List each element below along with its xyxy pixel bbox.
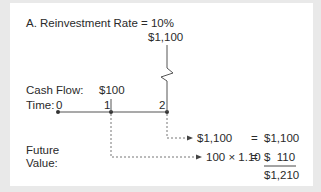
time-point-0: 0 xyxy=(56,99,62,112)
fv-total: $1,210 xyxy=(264,169,299,182)
time-point-1: 1 xyxy=(104,99,110,112)
cash-flow-t1: $100 xyxy=(99,84,125,97)
time-label: Time: xyxy=(26,99,54,112)
fv-eq-1: = xyxy=(251,132,258,145)
future-value-label-2: Value: xyxy=(26,157,58,170)
fv-eq-2: = xyxy=(251,151,258,164)
fv-result-1: $1,100 xyxy=(264,132,299,145)
arrow-icon xyxy=(196,155,202,160)
time-point-2: 2 xyxy=(159,99,165,112)
diagram-title: A. Reinvestment Rate = 10% xyxy=(26,17,174,30)
cash-flow-label: Cash Flow: xyxy=(26,84,84,97)
fv-result-2: $ 110 xyxy=(264,151,295,164)
future-value-label-1: Future xyxy=(26,144,59,157)
cash-flow-t2: $1,100 xyxy=(148,31,183,44)
arrow-icon xyxy=(187,136,193,141)
fv-expr-1: $1,100 xyxy=(197,132,232,145)
